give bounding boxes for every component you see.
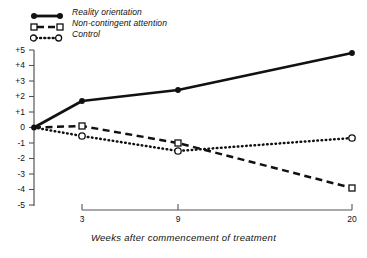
- x-axis: [82, 204, 352, 210]
- solid-filled-circle-key: [30, 7, 72, 17]
- y-tick-label: +5: [7, 46, 25, 55]
- legend-label-control: Control: [72, 29, 100, 39]
- y-tick-label: +1: [7, 108, 25, 117]
- y-tick-label: -5: [7, 201, 25, 210]
- legend-label-non-contingent-attention: Non-contingent attention: [72, 18, 167, 28]
- legend-item-reality-orientation: Reality orientation: [30, 7, 230, 17]
- dotted-open-circle-key: [30, 29, 72, 39]
- series-control: [34, 128, 355, 155]
- x-axis-caption: Weeks after commencement of treatment: [0, 232, 367, 243]
- legend: Reality orientation Non-contingent atten…: [30, 7, 230, 40]
- y-tick-label: -1: [7, 139, 25, 148]
- x-tick-label: 3: [74, 215, 90, 224]
- y-tick-label: +3: [7, 77, 25, 86]
- figure: Reality orientation Non-contingent atten…: [0, 0, 367, 258]
- y-tick-label: -3: [7, 170, 25, 179]
- legend-label-reality-orientation: Reality orientation: [72, 7, 142, 17]
- y-tick-label: 0: [7, 123, 25, 132]
- y-tick-label: -2: [7, 154, 25, 163]
- y-tick-label: -4: [7, 185, 25, 194]
- legend-item-non-contingent-attention: Non-contingent attention: [30, 18, 230, 28]
- legend-item-control: Control: [30, 29, 230, 39]
- x-tick-label: 9: [170, 215, 186, 224]
- series-reality-orientation: [31, 50, 355, 130]
- y-tick-label: +2: [7, 92, 25, 101]
- y-tick-label: +4: [7, 61, 25, 70]
- x-tick-label: 20: [344, 215, 360, 224]
- dashed-open-square-key: [30, 18, 72, 28]
